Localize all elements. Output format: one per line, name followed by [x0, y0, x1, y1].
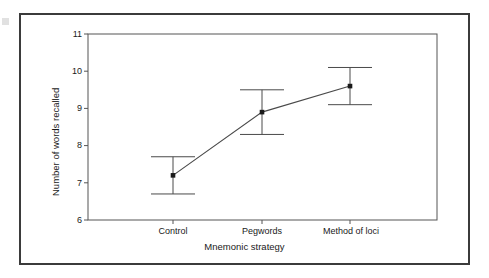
y-tick-label-6: 6 [64, 215, 82, 225]
y-axis-title: Number of words recalled [50, 88, 61, 196]
y-tick-label-7: 7 [64, 178, 82, 188]
data-point-marker [260, 110, 265, 115]
y-tick-label-9: 9 [64, 103, 82, 113]
plot-area-svg [0, 0, 489, 278]
x-axis-title: Mnemonic strategy [0, 241, 489, 252]
y-tick-label-8: 8 [64, 140, 82, 150]
data-point-marker [171, 173, 176, 178]
y-tick-label-10: 10 [64, 66, 82, 76]
x-tick-label-method-of-loci: Method of loci [308, 226, 394, 236]
figure-container: 11 10 9 8 7 6 Control Pegwords Method of… [0, 0, 489, 278]
data-point-marker [348, 84, 353, 89]
x-tick-label-control: Control [143, 226, 203, 236]
y-tick-label-11: 11 [64, 29, 82, 39]
x-tick-label-pegwords: Pegwords [230, 226, 294, 236]
